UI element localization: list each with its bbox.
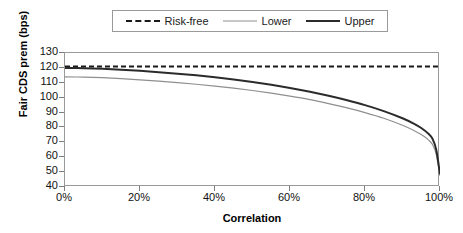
y-tick-label: 40: [28, 180, 58, 191]
dashed-line-icon: [126, 16, 160, 26]
legend-entry-risk-free: Risk-free: [126, 16, 209, 27]
y-tick-label: 90: [28, 106, 58, 117]
plot-area: [64, 52, 439, 186]
y-tick-label: 50: [28, 165, 58, 176]
x-tick-mark: [64, 186, 65, 191]
y-tick-label: 80: [28, 120, 58, 131]
y-tick-label: 60: [28, 150, 58, 161]
y-tick-label: 100: [28, 91, 58, 102]
y-tick-label: 130: [28, 46, 58, 57]
series-line-lower: [65, 77, 440, 176]
thick-line-icon: [306, 16, 340, 26]
legend-label-lower: Lower: [262, 16, 292, 27]
x-axis-title: Correlation: [64, 212, 440, 225]
legend-label-upper: Upper: [345, 16, 375, 27]
thin-line-icon: [223, 16, 257, 26]
plot-curves: [65, 53, 440, 187]
x-tick-label: 100%: [417, 192, 461, 203]
x-tick-label: 60%: [267, 192, 311, 203]
legend-entry-upper: Upper: [306, 16, 375, 27]
series-line-upper: [65, 68, 440, 174]
y-tick-label: 110: [28, 76, 58, 87]
x-tick-mark: [139, 186, 140, 191]
y-tick-label: 70: [28, 135, 58, 146]
x-tick-label: 0%: [42, 192, 86, 203]
x-tick-mark: [364, 186, 365, 191]
legend-entry-lower: Lower: [223, 16, 292, 27]
x-tick-mark: [439, 186, 440, 191]
chart-legend: Risk-free Lower Upper: [112, 10, 388, 32]
y-tick-label: 120: [28, 61, 58, 72]
legend-label-risk-free: Risk-free: [165, 16, 209, 27]
x-tick-mark: [214, 186, 215, 191]
cds-premium-chart: Risk-free Lower Upper Fair CDS prem (bps…: [0, 0, 463, 233]
x-tick-label: 80%: [342, 192, 386, 203]
x-tick-mark: [289, 186, 290, 191]
x-tick-label: 20%: [117, 192, 161, 203]
x-tick-label: 40%: [192, 192, 236, 203]
